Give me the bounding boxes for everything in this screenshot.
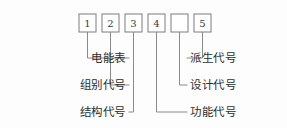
- label-design-code: 设计代号: [190, 78, 236, 92]
- label-group-code: 组别代号: [80, 78, 126, 92]
- code-box-3-text: 3: [130, 18, 136, 29]
- leader-lines-group: [88, 32, 203, 112]
- label-function-code: 功能代号: [190, 105, 236, 119]
- diagram-canvas: 1 2 3 4 5 电能表: [0, 0, 287, 128]
- label-meter: 电能表: [91, 51, 126, 65]
- code-box-1-text: 1: [84, 18, 90, 29]
- meter-code-diagram: 1 2 3 4 5 电能表: [0, 0, 287, 128]
- label-derivative-code: 派生代号: [190, 51, 236, 65]
- code-box-4[interactable]: 4: [148, 14, 165, 32]
- leader-line-box-5: [180, 32, 188, 85]
- code-box-5-rect: [171, 14, 188, 32]
- code-box-1[interactable]: 1: [79, 14, 96, 32]
- leader-line-box-3: [129, 32, 134, 112]
- code-box-6-text: 5: [199, 18, 205, 29]
- code-boxes-group: 1 2 3 4 5: [79, 14, 211, 32]
- code-box-6[interactable]: 5: [194, 14, 211, 32]
- code-box-2[interactable]: 2: [102, 14, 119, 32]
- label-structure-code: 结构代号: [80, 105, 126, 119]
- right-labels-group: 派生代号 设计代号 功能代号: [190, 51, 236, 119]
- code-box-2-text: 2: [107, 18, 113, 29]
- code-box-5-empty[interactable]: [171, 14, 188, 32]
- leader-line-box-4: [157, 32, 188, 112]
- left-labels-group: 电能表 组别代号 结构代号: [80, 51, 127, 119]
- code-box-3[interactable]: 3: [125, 14, 142, 32]
- code-box-4-text: 4: [153, 18, 159, 29]
